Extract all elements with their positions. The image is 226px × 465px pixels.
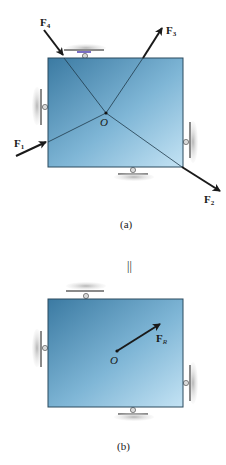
- left-roller-support-icon: [32, 329, 48, 367]
- origin-point: [104, 111, 107, 114]
- bottom-roller-support-icon: [114, 167, 154, 181]
- origin-label: O: [100, 116, 108, 128]
- force-system-diagram: O F4 F3 F1 F2 (a) ||: [0, 0, 226, 465]
- figure-a: O F4 F3 F1 F2 (a): [14, 16, 220, 231]
- origin-label: O: [110, 354, 118, 366]
- figure-b: O FR (b): [32, 282, 198, 453]
- force-label-f3: F3: [166, 24, 177, 38]
- top-roller-support-icon: [64, 44, 106, 59]
- caption-b: (b): [117, 440, 130, 453]
- force-label-f1: F1: [14, 137, 25, 151]
- rigid-plate: [48, 299, 183, 407]
- force-arrow-f4: [44, 30, 63, 55]
- equivalence-symbol: ||: [127, 259, 132, 273]
- left-roller-support-icon: [32, 87, 48, 125]
- right-roller-support-icon: [183, 362, 198, 404]
- top-roller-support-icon: [66, 282, 106, 299]
- force-label-f4: F4: [40, 16, 51, 30]
- force-arrow-f2: [182, 167, 220, 191]
- force-arrow-f3: [143, 28, 162, 58]
- caption-a: (a): [120, 218, 133, 231]
- rigid-plate: [48, 58, 183, 167]
- bottom-roller-support-icon: [114, 407, 154, 421]
- force-label-f2: F2: [204, 193, 215, 207]
- right-roller-support-icon: [183, 121, 198, 163]
